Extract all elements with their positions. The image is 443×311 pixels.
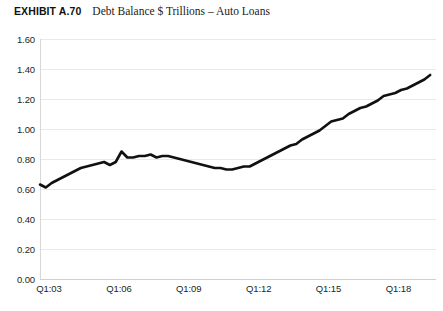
y-axis-tick-label: 1.00 <box>17 124 35 135</box>
y-axis-tick-label: 1.40 <box>17 64 35 75</box>
y-axis-tick-label: 0.60 <box>17 184 35 195</box>
y-axis-tick-label: 1.60 <box>17 34 35 45</box>
chart-header: EXHIBIT A.70 Debt Balance $ Trillions – … <box>14 5 270 17</box>
line-chart: 1.601.401.201.000.800.600.400.200.00 Q1:… <box>0 30 443 311</box>
y-axis-tick-label: 0.80 <box>17 154 35 165</box>
exhibit-label: EXHIBIT A.70 <box>14 5 81 17</box>
page-title: Debt Balance $ Trillions – Auto Loans <box>92 5 270 17</box>
y-axis-tick-label: 0.40 <box>17 214 35 225</box>
x-axis-tick-label: Q1:06 <box>106 283 131 294</box>
x-axis-tick-label: Q1:18 <box>386 283 411 294</box>
x-axis-line <box>40 279 436 280</box>
x-axis-tick-label: Q1:09 <box>176 283 201 294</box>
x-axis-tick-label: Q1:15 <box>316 283 341 294</box>
y-axis-tick-label: 1.20 <box>17 94 35 105</box>
y-axis-tick-label: 0.00 <box>17 274 35 285</box>
chart-page: EXHIBIT A.70 Debt Balance $ Trillions – … <box>0 0 443 311</box>
x-axis-tick-label: Q1:03 <box>36 283 61 294</box>
x-axis-tick-label: Q1:12 <box>246 283 271 294</box>
data-series-auto-loans <box>40 39 436 279</box>
series-line <box>40 75 430 188</box>
y-axis-ticks: 1.601.401.201.000.800.600.400.200.00 <box>0 39 35 279</box>
y-axis-tick-label: 0.20 <box>17 244 35 255</box>
